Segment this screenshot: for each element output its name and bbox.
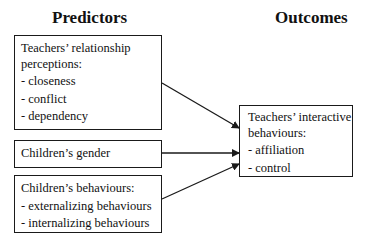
arrow-relationship-to-outcome <box>162 83 239 128</box>
arrow-behaviours-to-outcome <box>162 164 239 199</box>
arrows-layer <box>0 0 369 243</box>
